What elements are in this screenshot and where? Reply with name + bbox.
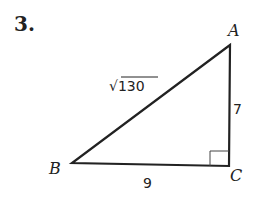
side-bc-length: 9 [143,175,152,191]
side-ac-length: 7 [233,101,242,117]
vertex-label-a: A [226,21,240,40]
triangle-abc [72,45,230,166]
side-ab-length: √130 [109,78,145,94]
right-triangle-diagram: A B C 7 9 √130 [0,0,253,215]
vertex-label-c: C [230,166,242,185]
right-angle-marker [210,151,229,166]
vertex-label-b: B [48,159,61,178]
